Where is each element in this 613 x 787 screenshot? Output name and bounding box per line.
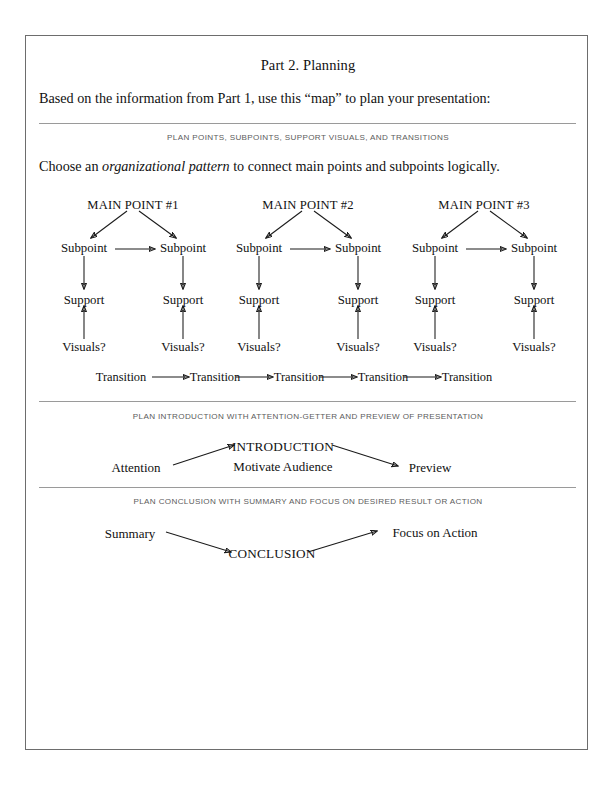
column-1-left-support: Support [64,294,105,307]
column-3-left-support: Support [415,294,456,307]
transition-5: Transition [442,371,493,383]
column-3-right-support: Support [514,294,555,307]
instruction-emphasis: organizational pattern [102,158,230,174]
points-section-caption: PLAN POINTS, SUBPOINTS, SUPPORT VISUALS,… [167,134,449,142]
main-point-3-label: MAIN POINT #3 [438,199,529,212]
introduction-motivate-node: Motivate Audience [233,460,332,473]
column-1-left-subpoint: Subpoint [61,242,107,255]
column-2-left-support: Support [239,294,280,307]
transition-4: Transition [358,371,409,383]
column-1-right-support: Support [163,294,204,307]
column-1-right-subpoint: Subpoint [160,242,206,255]
column-3-right-subpoint: Subpoint [511,242,557,255]
column-2-right-subpoint: Subpoint [335,242,381,255]
transition-3: Transition [274,371,325,383]
introduction-preview-node: Preview [409,461,452,474]
column-3-right-visuals: Visuals? [512,341,555,354]
column-1-right-visuals: Visuals? [161,341,204,354]
conclusion-focus-node: Focus on Action [392,526,477,539]
section-divider-3 [39,487,576,488]
instruction-text-before: Choose an [39,158,102,174]
conclusion-summary-node: Summary [105,527,156,540]
column-2-left-subpoint: Subpoint [236,242,282,255]
column-2-left-visuals: Visuals? [237,341,280,354]
column-3-left-subpoint: Subpoint [412,242,458,255]
main-point-1-label: MAIN POINT #1 [87,199,178,212]
conclusion-section-caption: PLAN CONCLUSION WITH SUMMARY AND FOCUS O… [134,498,483,506]
page-title: Part 2. Planning [261,58,356,73]
instruction-text-after: to connect main points and subpoints log… [230,158,500,174]
column-2-right-visuals: Visuals? [336,341,379,354]
transition-2: Transition [190,371,241,383]
transition-1: Transition [96,371,147,383]
section-divider-2 [39,401,576,402]
diagram-arrow-layer [26,36,589,751]
section-divider-1 [39,123,576,124]
main-point-2-label: MAIN POINT #2 [262,199,353,212]
organizational-pattern-instruction: Choose an organizational pattern to conn… [39,159,500,173]
introduction-attention-node: Attention [111,461,160,474]
conclusion-heading-node: CONCLUSION [229,547,316,560]
intro-instruction: Based on the information from Part 1, us… [39,91,491,105]
column-2-right-support: Support [338,294,379,307]
document-page: Part 2. Planning Based on the informatio… [25,35,588,750]
column-1-left-visuals: Visuals? [62,341,105,354]
column-3-left-visuals: Visuals? [413,341,456,354]
introduction-heading-node: INTRODUCTION [232,440,334,453]
introduction-section-caption: PLAN INTRODUCTION WITH ATTENTION-GETTER … [133,413,483,421]
